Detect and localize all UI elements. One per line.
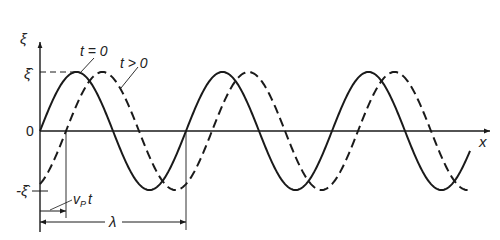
shift-leader [50, 200, 72, 210]
y-axis-label: ξ [20, 30, 28, 47]
wavelength-label: λ [108, 213, 116, 230]
shift-label: vPt [73, 191, 93, 209]
leader-t0 [80, 58, 94, 73]
wave-diagram: ξ x 0 ξ̂ -ξ̂ t = 0 t > 0 vPt λ [0, 0, 500, 240]
amplitude-pos-label: ξ̂ [24, 65, 34, 82]
curve-label-t0: t = 0 [80, 43, 108, 59]
origin-label: 0 [26, 123, 34, 139]
curve-label-t-later: t > 0 [120, 55, 148, 71]
amplitude-neg-label: -ξ̂ [16, 182, 31, 199]
x-axis-label: x [478, 133, 487, 150]
